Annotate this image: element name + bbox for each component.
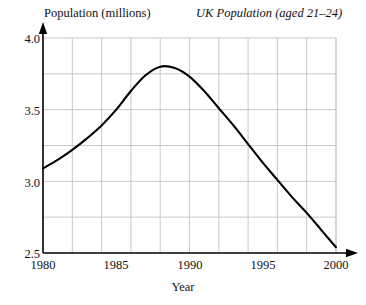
plot-area: [0, 0, 366, 305]
chart-figure: Population (millions) UK Population (age…: [0, 0, 366, 305]
